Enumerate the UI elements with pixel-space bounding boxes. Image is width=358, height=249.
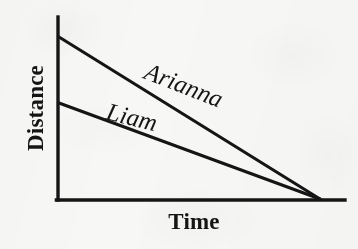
x-axis-label: Time bbox=[168, 210, 219, 233]
y-axis-label: Distance bbox=[24, 65, 47, 151]
distance-time-figure: Distance Time Arianna Liam bbox=[0, 0, 358, 249]
